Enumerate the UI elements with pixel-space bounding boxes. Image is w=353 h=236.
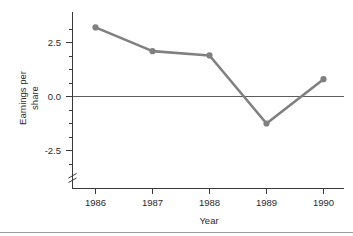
y-axis-title-line2: share [29,86,40,110]
data-point-1989 [263,120,269,126]
y-tick-label--2.5: -2.5 [45,145,61,156]
y-tick-label-2.5: 2.5 [48,37,61,48]
line-chart-canvas: 2.5 0.0 -2.5 Earnings per share 1986 198… [0,0,353,236]
x-axis-title: Year [199,215,218,226]
data-point-1986 [92,24,98,30]
data-point-1987 [149,48,155,54]
x-tick-label-1988: 1988 [199,197,220,208]
x-tick-label-1990: 1990 [313,197,334,208]
y-axis-title-line1: Earnings per [17,71,28,125]
chart-background [0,0,353,236]
data-point-1988 [206,52,212,58]
x-tick-label-1987: 1987 [142,197,163,208]
data-point-1990 [320,76,326,82]
x-tick-label-1989: 1989 [256,197,277,208]
chart-figure: 2.5 0.0 -2.5 Earnings per share 1986 198… [0,0,353,236]
y-tick-label-0.0: 0.0 [48,91,61,102]
x-tick-label-1986: 1986 [85,197,106,208]
